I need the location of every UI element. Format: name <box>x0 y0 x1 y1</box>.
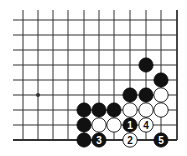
black-stone-move-1: 1 <box>123 118 137 132</box>
move-number-label: 5 <box>158 135 164 146</box>
black-stone <box>77 103 91 117</box>
move-number-label: 2 <box>127 135 133 146</box>
move-number-label: 4 <box>143 120 149 131</box>
white-stone <box>92 118 106 132</box>
white-stone <box>123 103 137 117</box>
white-stone <box>154 103 168 117</box>
black-stone <box>92 103 106 117</box>
move-number-label: 1 <box>127 120 133 131</box>
black-stone <box>77 118 91 132</box>
white-stone <box>107 118 121 132</box>
black-stone-move-3: 3 <box>92 133 106 147</box>
black-stone <box>107 103 121 117</box>
black-stone <box>123 88 137 102</box>
move-number-label: 3 <box>96 135 102 146</box>
go-board-diagram: 14325 <box>0 0 187 156</box>
black-stone <box>154 73 168 87</box>
black-stone <box>139 58 153 72</box>
black-stone <box>77 133 91 147</box>
white-stone <box>154 88 168 102</box>
black-stone-move-5: 5 <box>154 133 168 147</box>
black-stone <box>139 88 153 102</box>
white-stone-move-4: 4 <box>139 118 153 132</box>
white-stone-move-2: 2 <box>123 133 137 147</box>
star-point-icon <box>36 93 40 97</box>
star-points <box>36 93 40 97</box>
stones-layer: 14325 <box>77 58 168 147</box>
white-stone <box>139 103 153 117</box>
